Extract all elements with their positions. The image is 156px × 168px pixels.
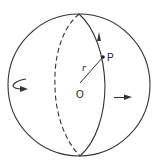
sphere-outline <box>8 14 150 156</box>
meridian-back-dashed <box>55 14 80 156</box>
sphere-diagram: P r O <box>0 0 156 168</box>
label-p: P <box>107 52 114 63</box>
point-p-dot <box>101 55 105 59</box>
label-r: r <box>82 61 87 73</box>
label-o: O <box>76 89 84 100</box>
meridian-direction-arrow-icon <box>97 32 101 41</box>
rotation-arrow-left-icon <box>13 79 26 89</box>
motion-arrow-right-icon <box>124 95 132 101</box>
meridian-front-solid <box>79 14 105 156</box>
rotation-arrowhead-left-icon <box>20 86 28 92</box>
